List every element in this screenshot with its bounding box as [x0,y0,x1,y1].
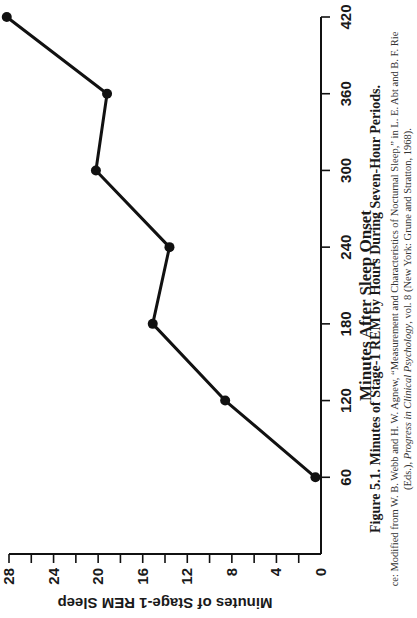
data-line [7,17,316,477]
figure-caption-title: Figure 5.1. Minutes of Stage-1 REM by Ho… [368,0,384,618]
x-tick-label: 300 [337,158,354,183]
x-tick-label: 360 [337,81,354,106]
data-point-marker [220,396,230,406]
y-tick-label: 24 [45,567,62,584]
data-point-marker [164,242,174,252]
y-tick-label: 8 [223,568,240,576]
y-tick-label: 16 [134,568,151,585]
data-point-marker [2,12,12,22]
figure-caption-source: ce: Modified from W. B. Webb and H. W. A… [388,0,414,618]
y-tick-label: 4 [267,567,284,576]
x-tick-label: 180 [337,311,354,336]
line-chart: 481216202428060120180240300360420Minutes… [0,0,417,618]
data-point-marker [91,165,101,175]
y-tick-label: 0 [312,568,329,576]
y-axis-title: Minutes of Stage-1 REM Sleep [57,595,272,612]
y-tick-label: 20 [89,568,106,585]
x-tick-label: 120 [337,388,354,413]
x-tick-label: 420 [337,4,354,29]
data-point-marker [102,89,112,99]
data-point-marker [310,472,320,482]
source-line-1: ce: Modified from W. B. Webb and H. W. A… [388,0,401,618]
y-tick-label: 12 [178,568,195,585]
data-point-marker [148,319,158,329]
x-tick-label: 60 [337,469,354,486]
rotated-figure: 481216202428060120180240300360420Minutes… [0,0,417,618]
x-tick-label: 240 [337,235,354,260]
source-line-2: (Eds.), Progress in Clinical Psychology,… [401,0,414,618]
y-tick-label: 28 [0,568,17,585]
